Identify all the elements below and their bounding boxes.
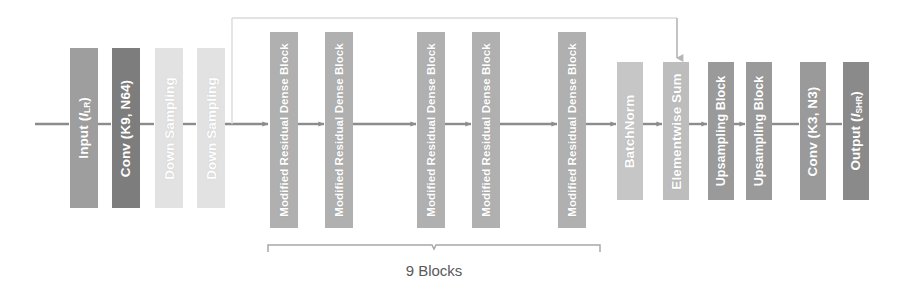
block-elementwise-sum[interactable]: Elementwise Sum xyxy=(663,62,689,200)
block-mrdb-5[interactable]: Modified Residual Dense Block xyxy=(558,32,586,228)
block-mrdb-4-label: Modified Residual Dense Block xyxy=(480,43,492,217)
nine-blocks-label: 9 Blocks xyxy=(268,262,600,279)
block-input-label: Input (ILR) xyxy=(76,97,92,159)
block-upsampling-2[interactable]: Upsampling Block xyxy=(746,62,772,200)
block-input[interactable]: Input (ILR) xyxy=(70,48,98,208)
block-down-sampling-2-label: Down Sampling xyxy=(204,77,219,180)
architecture-diagram: Input (ILR) Conv (K9, N64) Down Sampling… xyxy=(0,0,898,308)
block-output[interactable]: Output (ISHR) xyxy=(843,62,869,200)
block-batchnorm[interactable]: BatchNorm xyxy=(617,62,643,200)
block-mrdb-1[interactable]: Modified Residual Dense Block xyxy=(270,32,298,228)
block-conv-k9-n64[interactable]: Conv (K9, N64) xyxy=(112,48,140,208)
skip-connection-path xyxy=(232,18,677,124)
block-conv-k3-n3[interactable]: Conv (K3, N3) xyxy=(800,62,826,200)
block-mrdb-5-label: Modified Residual Dense Block xyxy=(566,43,578,217)
block-mrdb-1-label: Modified Residual Dense Block xyxy=(278,43,290,217)
block-mrdb-2-label: Modified Residual Dense Block xyxy=(333,43,345,217)
block-mrdb-2[interactable]: Modified Residual Dense Block xyxy=(325,32,353,228)
block-mrdb-3[interactable]: Modified Residual Dense Block xyxy=(417,32,445,228)
nine-blocks-brace xyxy=(268,245,600,252)
block-upsampling-2-label: Upsampling Block xyxy=(752,76,766,187)
block-output-label: Output (ISHR) xyxy=(848,91,864,170)
block-batchnorm-label: BatchNorm xyxy=(623,94,638,168)
block-down-sampling-1[interactable]: Down Sampling xyxy=(155,48,183,208)
block-upsampling-1-label: Upsampling Block xyxy=(714,76,728,187)
block-down-sampling-2[interactable]: Down Sampling xyxy=(197,48,225,208)
block-mrdb-4[interactable]: Modified Residual Dense Block xyxy=(472,32,500,228)
block-mrdb-3-label: Modified Residual Dense Block xyxy=(425,43,437,217)
block-upsampling-1[interactable]: Upsampling Block xyxy=(708,62,734,200)
block-elementwise-sum-label: Elementwise Sum xyxy=(669,73,684,189)
block-conv-k3-n3-label: Conv (K3, N3) xyxy=(806,86,821,176)
block-conv-k9-n64-label: Conv (K9, N64) xyxy=(119,79,134,176)
block-down-sampling-1-label: Down Sampling xyxy=(162,77,177,180)
